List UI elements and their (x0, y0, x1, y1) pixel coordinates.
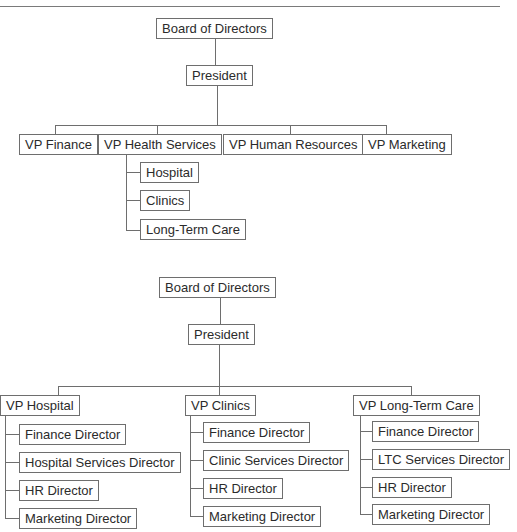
connector (58, 386, 412, 387)
president-box: President (188, 324, 255, 345)
vp-clinics-box: VP Clinics (185, 395, 256, 416)
vp-finance-box: VP Finance (19, 134, 98, 155)
connector (190, 432, 203, 433)
hospital-marketing-director-box: Marketing Director (19, 508, 137, 529)
clinics-hr-director-box: HR Director (203, 478, 283, 499)
ltc-hr-director-box: HR Director (372, 477, 452, 498)
hospital-hr-director-box: HR Director (19, 480, 99, 501)
clinics-box: Clinics (140, 190, 190, 211)
connector (126, 172, 140, 173)
hospital-services-director-box: Hospital Services Director (19, 452, 181, 473)
connector (217, 85, 218, 125)
vp-long-term-care-box: VP Long-Term Care (353, 395, 480, 416)
connector (126, 200, 140, 201)
connector (157, 125, 158, 134)
connector (126, 230, 140, 231)
clinics-marketing-director-box: Marketing Director (203, 506, 321, 527)
connector (219, 386, 220, 395)
connector (55, 125, 56, 134)
connector (58, 386, 59, 395)
hospital-finance-director-box: Finance Director (19, 424, 126, 445)
ltc-services-director-box: LTC Services Director (372, 449, 510, 470)
connector (190, 488, 203, 489)
ltc-finance-director-box: Finance Director (372, 421, 479, 442)
connector (215, 38, 216, 65)
vp-hospital-box: VP Hospital (0, 395, 80, 416)
connector (190, 460, 203, 461)
connector (5, 518, 19, 519)
vp-human-resources-box: VP Human Resources (223, 134, 363, 155)
connector (411, 386, 412, 395)
connector (190, 516, 203, 517)
connector (126, 155, 127, 231)
board-of-directors-box: Board of Directors (156, 18, 273, 39)
connector (5, 416, 6, 518)
clinics-finance-director-box: Finance Director (203, 422, 310, 443)
connector (55, 125, 387, 126)
president-box: President (186, 65, 253, 86)
connector (190, 416, 191, 516)
top-rule (0, 6, 500, 7)
vp-health-services-box: VP Health Services (98, 134, 222, 155)
vp-marketing-box: VP Marketing (362, 134, 452, 155)
connector (220, 297, 221, 325)
connector (386, 125, 387, 134)
connector (5, 490, 19, 491)
connector (5, 462, 19, 463)
connector (5, 434, 19, 435)
long-term-care-box: Long-Term Care (140, 219, 246, 240)
hospital-box: Hospital (140, 162, 199, 183)
board-of-directors-box: Board of Directors (159, 277, 276, 298)
ltc-marketing-director-box: Marketing Director (372, 504, 490, 525)
connector (290, 125, 291, 134)
clinic-services-director-box: Clinic Services Director (203, 450, 349, 471)
connector (219, 345, 220, 386)
